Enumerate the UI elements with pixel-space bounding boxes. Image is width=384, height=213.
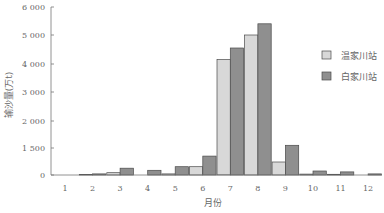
legend: 温家川站白家川站 (322, 50, 377, 82)
bar-wenjiachuan (189, 167, 202, 175)
legend-swatch (322, 72, 331, 80)
y-axis-title: 输沙量(万t) (3, 72, 14, 119)
x-tick-label: 10 (308, 184, 318, 193)
legend-swatch (322, 51, 331, 59)
x-tick-label: 1 (62, 184, 67, 193)
bar-wenjiachuan (245, 35, 258, 175)
bar-baijiachuan (148, 170, 161, 175)
y-tick-label: 0 (40, 171, 45, 180)
bar-baijiachuan (230, 48, 243, 175)
x-tick-label: 8 (255, 184, 260, 193)
bar-baijiachuan (175, 167, 188, 175)
legend-label: 温家川站 (341, 50, 377, 61)
x-tick-label: 6 (200, 184, 205, 193)
x-tick-label: 3 (118, 184, 123, 193)
y-tick-label: 2 000 (22, 117, 45, 126)
bar-baijiachuan (120, 168, 133, 175)
y-tick-label: 3 000 (22, 88, 45, 97)
x-tick-label: 12 (363, 184, 373, 193)
bar-wenjiachuan (217, 60, 230, 175)
y-tick-label: 5 000 (22, 31, 45, 40)
bar-baijiachuan (285, 145, 298, 175)
x-tick-label: 5 (173, 184, 178, 193)
bar-wenjiachuan (272, 162, 285, 175)
bar-baijiachuan (258, 24, 271, 175)
x-tick-label: 11 (335, 184, 345, 193)
y-tick-label: 1 500 (22, 144, 45, 153)
x-tick-label: 7 (228, 184, 233, 193)
x-tick-label: 4 (145, 184, 150, 193)
x-tick-label: 2 (90, 184, 95, 193)
x-tick-label: 9 (283, 184, 288, 193)
y-tick-label: 6 000 (22, 3, 45, 12)
bars (79, 24, 381, 175)
x-axis-ticks: 123456789101112 (62, 184, 373, 193)
bar-chart: 01 5002 0003 0004 0005 0006 000 12345678… (0, 0, 384, 213)
bar-baijiachuan (313, 171, 326, 175)
legend-label: 白家川站 (341, 71, 377, 82)
y-tick-label: 4 000 (22, 60, 45, 69)
bar-baijiachuan (203, 156, 216, 175)
bar-baijiachuan (341, 172, 354, 175)
y-axis-ticks: 01 5002 0003 0004 0005 0006 000 (22, 3, 54, 180)
x-axis-title: 月份 (204, 197, 222, 208)
